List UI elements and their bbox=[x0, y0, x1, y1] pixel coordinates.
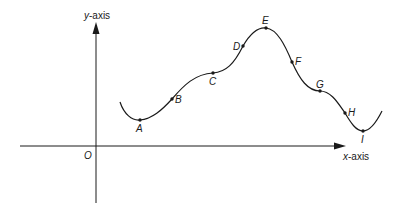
point-a-dot bbox=[138, 118, 141, 121]
y-axis-label: y-axis bbox=[83, 10, 110, 21]
point-e-dot bbox=[264, 26, 267, 29]
point-g-label: G bbox=[316, 79, 324, 90]
point-c-label: C bbox=[209, 76, 217, 87]
point-e-label: E bbox=[262, 15, 269, 26]
point-b-dot bbox=[170, 97, 173, 100]
point-d-label: D bbox=[233, 41, 240, 52]
curve-diagram: A B C D E F G H I y-axis x-axis O bbox=[0, 0, 401, 215]
x-axis-arrow-icon bbox=[334, 143, 346, 150]
point-a-label: A bbox=[135, 123, 143, 134]
point-i-label: I bbox=[361, 134, 364, 145]
y-axis-label-suffix: -axis bbox=[89, 10, 110, 21]
point-d-dot bbox=[241, 44, 244, 47]
point-c-dot bbox=[211, 71, 214, 74]
origin-label: O bbox=[84, 150, 92, 161]
x-axis-label: x-axis bbox=[342, 151, 369, 162]
point-i-dot bbox=[361, 129, 364, 132]
function-curve bbox=[120, 28, 382, 131]
x-axis-label-suffix: -axis bbox=[348, 151, 369, 162]
y-axis-arrow-icon bbox=[93, 22, 100, 34]
point-h-dot bbox=[343, 111, 346, 114]
point-f-label: F bbox=[295, 56, 302, 67]
point-b-label: B bbox=[175, 94, 182, 105]
point-f-dot bbox=[290, 60, 293, 63]
point-h-label: H bbox=[348, 107, 356, 118]
